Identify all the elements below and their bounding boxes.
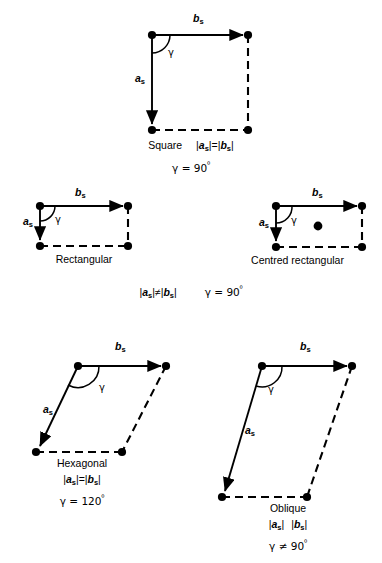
rect-vertex-ab xyxy=(124,242,132,250)
square-label-b-vector: bs xyxy=(193,12,204,24)
crect-vertex-a xyxy=(272,243,280,251)
hexagonal-label-gamma: γ xyxy=(99,382,105,393)
caption-hexagonal: Hexagonal |as|=|bs| γ = 120º xyxy=(0,456,164,508)
centred-label-a-vector: as xyxy=(259,216,269,228)
centred-label-b-vector: bs xyxy=(312,186,323,198)
caption-oblique-name: Oblique xyxy=(213,501,363,515)
caption-oblique: Oblique |as||bs| γ ≠ 90º xyxy=(213,501,363,553)
obl-vertex-ab xyxy=(303,493,311,501)
caption-rectangular: Rectangular xyxy=(0,252,168,266)
oblique-label-gamma: γ xyxy=(268,384,274,395)
oblique-label-b-vector: bs xyxy=(300,340,311,352)
square-label-a-vector: as xyxy=(135,72,145,84)
rect-vertex-origin xyxy=(36,202,44,210)
obl-edge-dashed-right xyxy=(307,366,352,497)
hex-vertex-origin xyxy=(74,362,82,370)
rectangular-label-b-vector: bs xyxy=(75,186,86,198)
rect-vertex-b xyxy=(124,202,132,210)
lattice-diagram-centred-rectangular xyxy=(190,190,382,260)
crect-vertex-b xyxy=(358,202,366,210)
oblique-label-a-vector: as xyxy=(245,424,255,436)
caption-oblique-magnitudes: |as||bs| xyxy=(213,517,363,533)
caption-centred-rectangular: Centred rectangular xyxy=(213,253,382,267)
crect-vertex-origin xyxy=(272,202,280,210)
caption-hexagonal-angle: γ = 120º xyxy=(0,491,164,508)
centred-label-gamma: γ xyxy=(291,215,297,226)
figure-canvas: bs as γ Square|as|=|bs| γ = 90º bs as γ … xyxy=(0,0,382,563)
square-vertex-b xyxy=(244,31,252,39)
square-vertex-origin xyxy=(148,31,156,39)
hexagonal-label-b-vector: bs xyxy=(115,340,126,352)
lattice-diagram-oblique xyxy=(190,330,382,515)
hex-vertex-ab xyxy=(118,448,126,456)
square-vertex-a xyxy=(148,126,156,134)
hex-edge-dashed-right xyxy=(122,366,166,452)
crect-centre-lattice-point xyxy=(314,222,323,231)
lattice-diagram-hexagonal xyxy=(0,330,200,470)
hex-vertex-b xyxy=(162,362,170,370)
caption-square: Square|as|=|bs| γ = 90º xyxy=(0,138,382,175)
rect-vertex-a xyxy=(36,242,44,250)
lattice-diagram-square xyxy=(0,0,382,150)
caption-square-line2: γ = 90º xyxy=(0,158,382,175)
caption-hexagonal-magnitudes: |as|=|bs| xyxy=(0,472,164,488)
obl-vertex-origin xyxy=(258,362,266,370)
caption-oblique-angle: γ ≠ 90º xyxy=(213,536,363,553)
caption-square-line1: Square|as|=|bs| xyxy=(0,138,382,154)
square-label-gamma: γ xyxy=(168,47,174,58)
caption-middle-conditions: |as|≠|bs|γ = 90º xyxy=(0,282,382,301)
crect-vertex-ab xyxy=(358,243,366,251)
rectangular-label-a-vector: as xyxy=(23,215,33,227)
obl-vertex-a xyxy=(218,493,226,501)
obl-vector-a xyxy=(225,366,262,491)
hexagonal-label-a-vector: as xyxy=(43,403,53,415)
obl-vertex-b xyxy=(348,362,356,370)
square-vertex-ab xyxy=(244,126,252,134)
hex-vertex-a xyxy=(32,448,40,456)
caption-hexagonal-name: Hexagonal xyxy=(0,456,164,470)
rectangular-label-gamma: γ xyxy=(55,214,61,225)
